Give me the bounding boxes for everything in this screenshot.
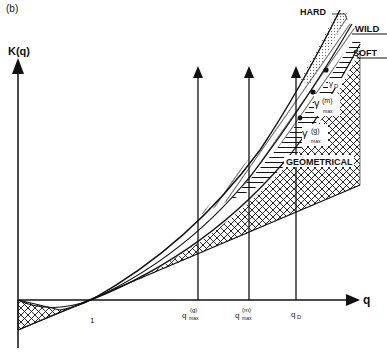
svg-text:(m): (m) — [322, 97, 333, 105]
svg-text:γ: γ — [329, 79, 333, 88]
geometrical-lower-line — [18, 185, 360, 330]
wild-label: WILD — [355, 23, 379, 34]
svg-text:(m): (m) — [242, 307, 251, 313]
qmax-m-arrow-icon — [244, 66, 254, 78]
tick-qmax-g: q (g) max — [182, 307, 199, 321]
svg-text:D: D — [297, 314, 302, 320]
svg-text:max: max — [242, 315, 252, 321]
geometrical-label-box: GEOMETRICAL — [284, 155, 354, 167]
svg-text:(g): (g) — [190, 307, 197, 313]
tick-one: 1 — [90, 316, 95, 325]
svg-text:max: max — [189, 315, 199, 321]
svg-text:q: q — [235, 311, 239, 320]
gamma-d-point — [323, 67, 328, 72]
gamma-max-g-label: γ (g) max — [302, 124, 328, 146]
y-axis-arrow-icon — [12, 58, 24, 74]
svg-text:γ: γ — [314, 97, 320, 109]
svg-text:q: q — [291, 310, 295, 319]
tick-qd: q D — [291, 310, 302, 320]
gamma-d-label: γ D — [328, 78, 342, 89]
svg-text:max: max — [323, 108, 333, 114]
svg-text:(g): (g) — [311, 127, 320, 135]
panel-label: (b) — [6, 3, 18, 14]
svg-text:q: q — [182, 311, 186, 320]
svg-text:γ: γ — [302, 127, 308, 139]
x-axis-label: q — [363, 293, 370, 307]
gamma-max-m-label: γ (m) max — [314, 94, 340, 116]
hard-label: HARD — [300, 7, 326, 17]
geometrical-label: GEOMETRICAL — [286, 157, 353, 167]
gamma-max-g-point — [298, 116, 303, 121]
soft-label: SOFT — [353, 48, 378, 58]
qmax-g-arrow-icon — [193, 66, 203, 78]
qd-arrow-icon — [291, 66, 301, 78]
x-axis-arrow-icon — [346, 294, 360, 306]
svg-text:D: D — [334, 83, 339, 89]
tick-qmax-m: q (m) max — [235, 307, 252, 321]
gamma-max-m-point — [310, 89, 315, 94]
k-of-q-diagram: (b) K(q) q 1 q (g) max q (m) max q D HAR… — [0, 0, 387, 359]
svg-text:max: max — [311, 138, 321, 144]
y-axis-label: K(q) — [8, 45, 30, 57]
